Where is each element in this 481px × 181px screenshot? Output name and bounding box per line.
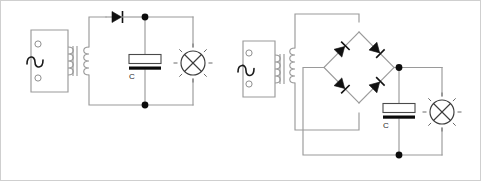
capacitor-label-left: C bbox=[129, 72, 135, 81]
transformer-secondary-coil-icon-right bbox=[290, 48, 295, 83]
circuit-half-wave-rectifier: C bbox=[27, 11, 213, 108]
lamp-left bbox=[174, 44, 213, 83]
circuit-full-wave-bridge-rectifier: C bbox=[238, 14, 462, 158]
ac-source-left bbox=[27, 30, 68, 92]
capacitor-top-plate-icon-right bbox=[383, 104, 415, 113]
ac-terminal-top-icon-right bbox=[246, 50, 252, 56]
diode-triangle-icon bbox=[112, 12, 122, 23]
lamp-right bbox=[423, 93, 462, 132]
ac-terminal-bottom-icon-right bbox=[246, 81, 252, 87]
junction-dot-bottom-right-circuit bbox=[396, 152, 403, 159]
ac-source-right bbox=[238, 41, 275, 97]
capacitor-top-plate-icon bbox=[129, 55, 161, 64]
transformer-right bbox=[275, 48, 295, 84]
junction-dot-top-left-circuit bbox=[142, 14, 149, 21]
diode-half-wave bbox=[106, 11, 145, 23]
ac-sine-wave-icon-right bbox=[238, 65, 254, 75]
circuit-diagram-canvas: C bbox=[0, 0, 481, 181]
junction-dot-top-right-circuit bbox=[396, 64, 403, 71]
capacitor-bottom-plate-icon bbox=[129, 67, 161, 70]
transformer-left bbox=[68, 46, 89, 76]
diode-bridge bbox=[324, 32, 394, 103]
ac-sine-wave-icon bbox=[27, 57, 43, 67]
ac-terminal-bottom-icon bbox=[35, 75, 41, 81]
capacitor-label-right: C bbox=[383, 121, 389, 130]
capacitor-bottom-plate-icon-right bbox=[383, 116, 415, 119]
ac-terminal-top-icon bbox=[35, 41, 41, 47]
bridge-input-rails bbox=[295, 14, 359, 130]
transformer-secondary-coil-icon bbox=[84, 47, 89, 75]
junction-dot-bottom-left-circuit bbox=[142, 102, 149, 109]
